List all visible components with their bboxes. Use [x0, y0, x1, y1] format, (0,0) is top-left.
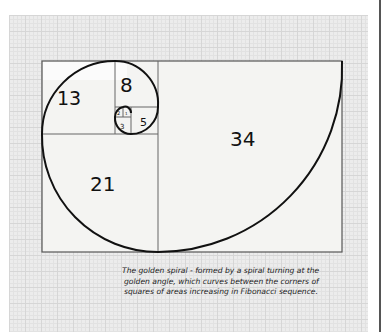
caption-line-2: golden angle, which curves between the c…: [122, 277, 362, 288]
caption-line-1: The golden spiral - formed by a spiral t…: [122, 266, 362, 277]
label-21: 21: [90, 172, 115, 196]
caption: The golden spiral - formed by a spiral t…: [122, 266, 362, 298]
label-5: 5: [140, 116, 147, 129]
label-3: 3: [120, 123, 124, 131]
golden-rectangle: [42, 61, 342, 252]
label-8: 8: [120, 73, 133, 97]
label-13: 13: [57, 87, 81, 109]
label-2: 2: [117, 110, 120, 116]
caption-line-3: squares of areas increasing in Fibonacci…: [122, 287, 362, 298]
label-34: 34: [230, 127, 255, 151]
